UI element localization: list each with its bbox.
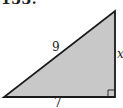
right-triangle-diagram bbox=[0, 0, 123, 108]
vertical-side-label: x bbox=[117, 48, 123, 60]
hypotenuse-label: 9 bbox=[52, 41, 60, 53]
triangle-shape bbox=[4, 11, 115, 97]
base-label: 7 bbox=[54, 97, 62, 108]
